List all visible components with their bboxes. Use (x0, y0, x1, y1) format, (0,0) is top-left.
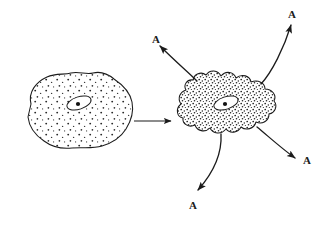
diagram-canvas: A A A A (0, 0, 328, 228)
secretion-arrow-top-left (160, 46, 197, 81)
resting-cell (20, 68, 140, 154)
secretion-arrow-bottom (198, 134, 221, 190)
label-a-bottom: A (189, 200, 197, 211)
active-cell-nucleolus (223, 102, 227, 106)
resting-cell-cytoplasm-stipple (20, 68, 140, 154)
label-a-top-right: A (288, 9, 296, 20)
secretion-arrow-top-right (261, 25, 291, 84)
resting-cell-nucleolus (76, 102, 80, 106)
secretion-arrow-bottom-right (257, 127, 295, 158)
label-a-top-left: A (152, 34, 160, 45)
label-a-bottom-right: A (303, 155, 311, 166)
diagram-svg (0, 0, 328, 228)
